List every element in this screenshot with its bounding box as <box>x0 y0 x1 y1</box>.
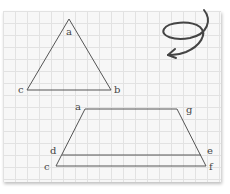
spiral-arrow-icon <box>163 10 208 58</box>
label-quad-f: f <box>209 161 214 172</box>
label-triangle-b: b <box>114 84 120 95</box>
label-quad-a: a <box>75 101 81 112</box>
diagram-stage: a b c a g d e c f <box>0 0 230 194</box>
label-quad-e: e <box>207 145 213 156</box>
segment-a-c <box>56 109 85 166</box>
label-quad-g: g <box>186 104 193 115</box>
segment-g-f <box>177 109 206 166</box>
label-triangle-c: c <box>18 84 24 95</box>
label-quad-d: d <box>50 145 57 156</box>
label-quad-c: c <box>44 161 50 172</box>
geometry-figure: a b c a g d e c f <box>0 0 230 194</box>
label-triangle-a: a <box>66 26 72 37</box>
